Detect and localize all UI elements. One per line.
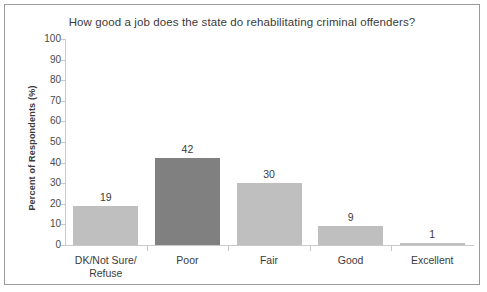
bar	[155, 158, 220, 245]
y-axis-tick-label: 100	[25, 34, 61, 44]
bar-value-label: 30	[237, 169, 302, 180]
bar	[73, 206, 138, 245]
chart-title: How good a job does the state do rehabil…	[5, 16, 479, 28]
x-axis-category-label: Good	[305, 254, 397, 267]
y-axis-tick-label: 80	[25, 75, 61, 85]
bar-value-label: 19	[73, 192, 138, 203]
x-axis-category-label: Poor	[142, 254, 234, 267]
y-axis-tick-label: 90	[25, 55, 61, 65]
bar	[318, 226, 383, 245]
y-axis-tick-label: 30	[25, 178, 61, 188]
y-axis-tick-labels: 1009080706050403020100	[19, 5, 61, 286]
x-axis-line	[65, 245, 474, 246]
x-axis-tick-mark	[228, 246, 229, 251]
x-axis-category-label: DK/Not Sure/ Refuse	[60, 254, 152, 280]
y-axis-tick-label: 40	[25, 158, 61, 168]
plot-area: 19423091	[65, 39, 473, 245]
bar-value-label: 9	[318, 212, 383, 223]
y-axis-tick-label: 70	[25, 96, 61, 106]
y-axis-tick-label: 60	[25, 116, 61, 126]
bar-value-label: 1	[400, 229, 465, 240]
bar	[237, 183, 302, 245]
y-axis-tick-label: 10	[25, 219, 61, 229]
x-axis-tick-mark	[147, 246, 148, 251]
x-axis-category-label: Fair	[223, 254, 315, 267]
y-axis-tick-label: 0	[25, 240, 61, 250]
bar-value-label: 42	[155, 144, 220, 155]
y-axis-tick-label: 50	[25, 137, 61, 147]
x-axis-tick-mark	[391, 246, 392, 251]
chart-frame: How good a job does the state do rehabil…	[4, 4, 480, 285]
x-axis-category-label: Excellent	[386, 254, 478, 267]
bar	[400, 243, 465, 245]
y-axis-tick-label: 20	[25, 199, 61, 209]
x-axis-tick-mark	[310, 246, 311, 251]
